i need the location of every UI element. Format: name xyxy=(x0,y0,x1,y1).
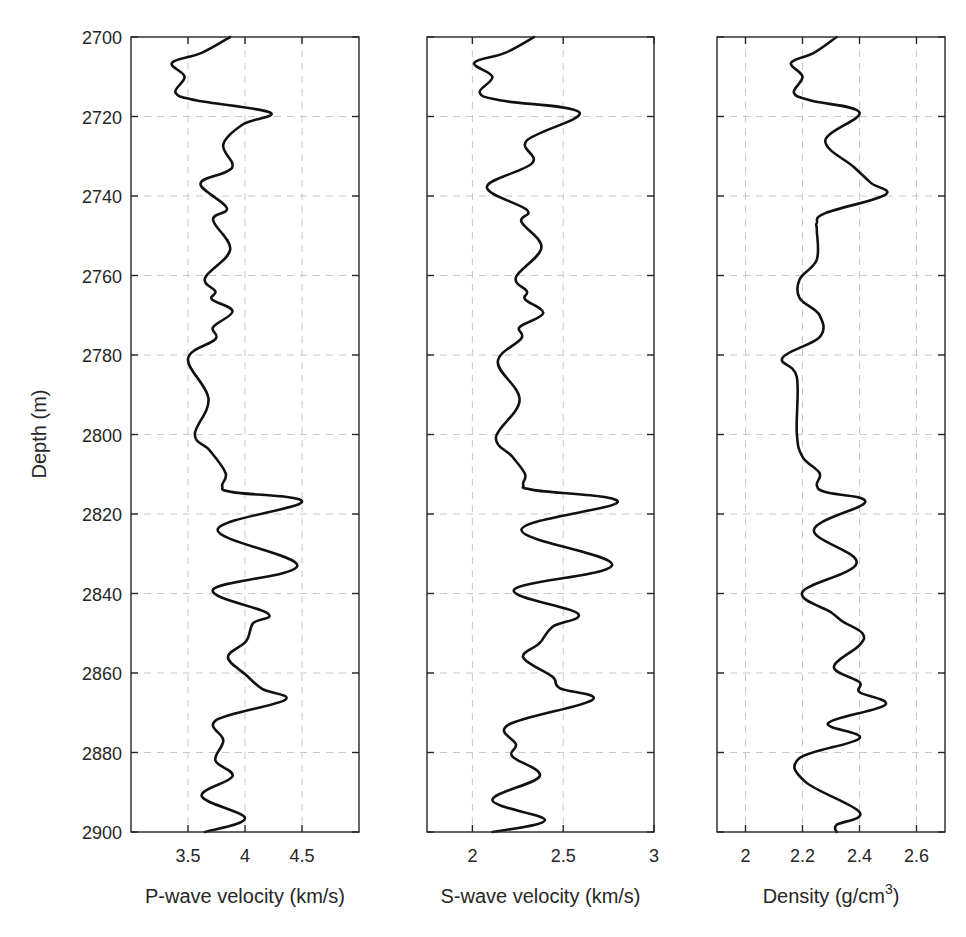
x-tick-label: 4.5 xyxy=(289,846,314,866)
panel-1: 3.544.5270027202740276027802800282028402… xyxy=(82,28,359,907)
x-axis-label: S-wave velocity (km/s) xyxy=(440,885,640,907)
x-tick-label: 3.5 xyxy=(175,846,200,866)
x-axis-label: Density (g/cm3) xyxy=(763,881,900,907)
y-tick-label: 2800 xyxy=(82,426,122,446)
x-axis-label: P-wave velocity (km/s) xyxy=(145,885,345,907)
y-tick-label: 2760 xyxy=(82,267,122,287)
x-tick-label: 3 xyxy=(649,846,659,866)
panel-3: 22.22.42.6Density (g/cm3) xyxy=(717,37,945,907)
x-tick-label: 2 xyxy=(740,846,750,866)
y-axis-label: Depth (m) xyxy=(28,390,50,479)
x-tick-label: 2.2 xyxy=(790,846,815,866)
y-tick-label: 2700 xyxy=(82,28,122,48)
well-log-figure: 3.544.5270027202740276027802800282028402… xyxy=(0,0,966,937)
y-tick-label: 2880 xyxy=(82,744,122,764)
plot-frame xyxy=(717,37,945,832)
y-tick-label: 2860 xyxy=(82,664,122,684)
panel-2: 22.53S-wave velocity (km/s) xyxy=(427,37,659,907)
y-tick-label: 2720 xyxy=(82,108,122,128)
plot-frame xyxy=(427,37,654,832)
x-tick-label: 2 xyxy=(467,846,477,866)
x-tick-label: 2.6 xyxy=(904,846,929,866)
x-tick-label: 2.5 xyxy=(551,846,576,866)
y-tick-label: 2900 xyxy=(82,823,122,843)
well-log-chart: 3.544.5270027202740276027802800282028402… xyxy=(0,0,966,937)
x-tick-label: 2.4 xyxy=(847,846,872,866)
y-tick-label: 2780 xyxy=(82,346,122,366)
y-tick-label: 2740 xyxy=(82,187,122,207)
y-tick-label: 2840 xyxy=(82,585,122,605)
y-tick-label: 2820 xyxy=(82,505,122,525)
x-tick-label: 4 xyxy=(240,846,250,866)
